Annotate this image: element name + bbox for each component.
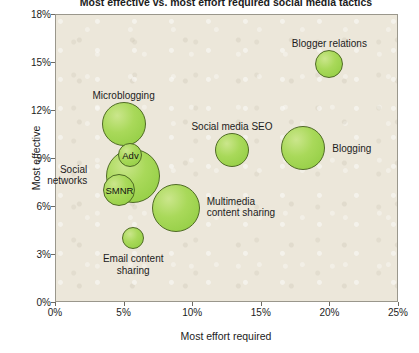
x-tick-mark (55, 302, 56, 306)
y-tick-label: 15% (31, 57, 51, 68)
y-tick-mark (51, 62, 55, 63)
bubble-point[interactable] (152, 184, 200, 232)
chart-title: Most effective vs. most effort required … (80, 0, 372, 8)
y-tick-mark (51, 14, 55, 15)
x-tick-label: 0% (48, 307, 62, 318)
x-tick-label: 20% (319, 307, 339, 318)
y-tick-label: 6% (37, 201, 51, 212)
x-axis-title: Most effort required (181, 330, 272, 342)
x-tick-mark (124, 302, 125, 306)
y-tick-mark (51, 206, 55, 207)
bubble-label: Blogger relations (292, 38, 367, 50)
bubble-label: Email content sharing (103, 253, 164, 276)
bubble-point[interactable] (102, 102, 146, 146)
bubble-label: Blogging (332, 143, 371, 155)
bubble-inner-label: Adv (122, 149, 138, 160)
x-tick-mark (398, 302, 399, 306)
bubble-label: Social media SEO (191, 121, 272, 133)
x-tick-mark (261, 302, 262, 306)
bubble-label: Social networks (47, 164, 87, 187)
x-tick-mark (329, 302, 330, 306)
bubble-point[interactable] (215, 133, 249, 167)
x-tick-label: 15% (251, 307, 271, 318)
bubble-chart: Most effective vs. most effort required … (0, 0, 419, 353)
x-tick-label: 5% (116, 307, 130, 318)
y-tick-mark (51, 302, 55, 303)
y-tick-label: 0% (37, 297, 51, 308)
bubble-label: Multimedia content sharing (207, 196, 275, 219)
y-axis-title: Most effective (30, 126, 42, 191)
y-tick-label: 18% (31, 9, 51, 20)
bubble-label: Microblogging (92, 90, 154, 102)
x-tick-mark (192, 302, 193, 306)
bubble-inner-label: SMNR (105, 185, 133, 196)
x-tick-label: 10% (182, 307, 202, 318)
y-tick-mark (51, 158, 55, 159)
y-tick-label: 12% (31, 105, 51, 116)
y-tick-mark (51, 254, 55, 255)
y-tick-mark (51, 110, 55, 111)
y-tick-label: 3% (37, 249, 51, 260)
x-tick-label: 25% (388, 307, 408, 318)
bubble-point[interactable] (315, 50, 343, 78)
